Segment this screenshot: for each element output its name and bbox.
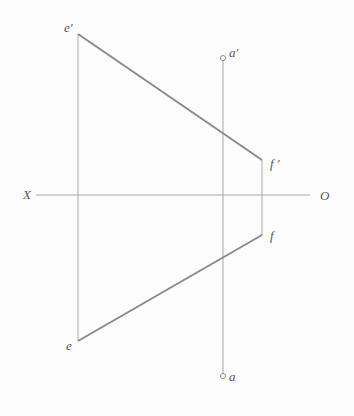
- axis-label-o: O: [320, 189, 329, 202]
- diagram-drawing: [0, 0, 354, 416]
- label-f-prime: f ′: [270, 157, 280, 170]
- a-point-marker: [221, 374, 226, 379]
- label-e: e: [66, 339, 72, 352]
- projection-diagram: e′ f ′ f e a′ a X O: [0, 0, 354, 416]
- a-prime-point-marker: [221, 56, 226, 61]
- label-f: f: [270, 229, 274, 242]
- label-e-prime: e′: [64, 21, 73, 34]
- label-a: a: [229, 370, 236, 383]
- ef-top-view-line: [78, 235, 262, 341]
- axis-label-x: X: [23, 188, 31, 201]
- label-a-prime: a′: [229, 46, 238, 59]
